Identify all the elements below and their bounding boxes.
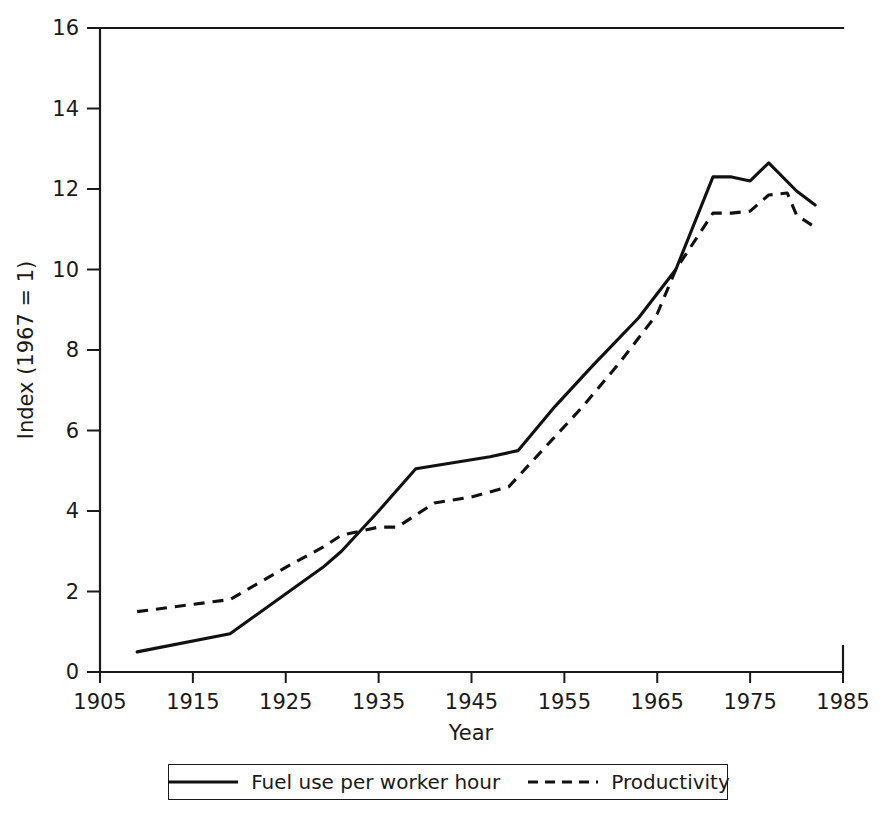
x-tick-label: 1935 bbox=[352, 690, 405, 714]
x-axis-title: Year bbox=[448, 721, 494, 745]
y-tick-label: 16 bbox=[52, 16, 79, 40]
y-tick-label: 14 bbox=[52, 97, 79, 121]
x-axis-ticks: 190519151925193519451955196519751985 bbox=[73, 672, 869, 714]
line-chart-plot: 0246810121416 19051915192519351945195519… bbox=[0, 0, 885, 815]
y-tick-label: 2 bbox=[66, 580, 79, 604]
legend-swatch-dashed-icon bbox=[526, 776, 600, 788]
x-tick-label: 1965 bbox=[631, 690, 684, 714]
series-line-productivity bbox=[137, 193, 815, 612]
chart-container: 0246810121416 19051915192519351945195519… bbox=[0, 0, 885, 815]
legend-swatch-solid-icon bbox=[166, 776, 240, 788]
series-line-fuel-use-per-worker-hour bbox=[137, 163, 815, 652]
x-tick-label: 1945 bbox=[445, 690, 498, 714]
y-tick-label: 0 bbox=[66, 660, 79, 684]
x-tick-label: 1985 bbox=[816, 690, 869, 714]
y-tick-label: 4 bbox=[66, 499, 79, 523]
x-tick-label: 1905 bbox=[73, 690, 126, 714]
axis-frame bbox=[100, 28, 843, 672]
legend-label-productivity: Productivity bbox=[611, 770, 730, 794]
legend-item-productivity: Productivity bbox=[526, 770, 730, 794]
legend-item-fuel-use: Fuel use per worker hour bbox=[166, 770, 500, 794]
x-tick-label: 1975 bbox=[723, 690, 776, 714]
y-axis-ticks: 0246810121416 bbox=[52, 16, 100, 684]
y-tick-label: 8 bbox=[66, 338, 79, 362]
x-tick-label: 1925 bbox=[259, 690, 312, 714]
y-tick-label: 12 bbox=[52, 177, 79, 201]
y-tick-label: 6 bbox=[66, 419, 79, 443]
legend-label-fuel-use: Fuel use per worker hour bbox=[251, 770, 500, 794]
y-axis-title: Index (1967 = 1) bbox=[14, 261, 38, 440]
x-tick-label: 1915 bbox=[166, 690, 219, 714]
chart-legend: Fuel use per worker hour Productivity bbox=[168, 764, 728, 800]
y-tick-label: 10 bbox=[52, 258, 79, 282]
x-tick-label: 1955 bbox=[538, 690, 591, 714]
